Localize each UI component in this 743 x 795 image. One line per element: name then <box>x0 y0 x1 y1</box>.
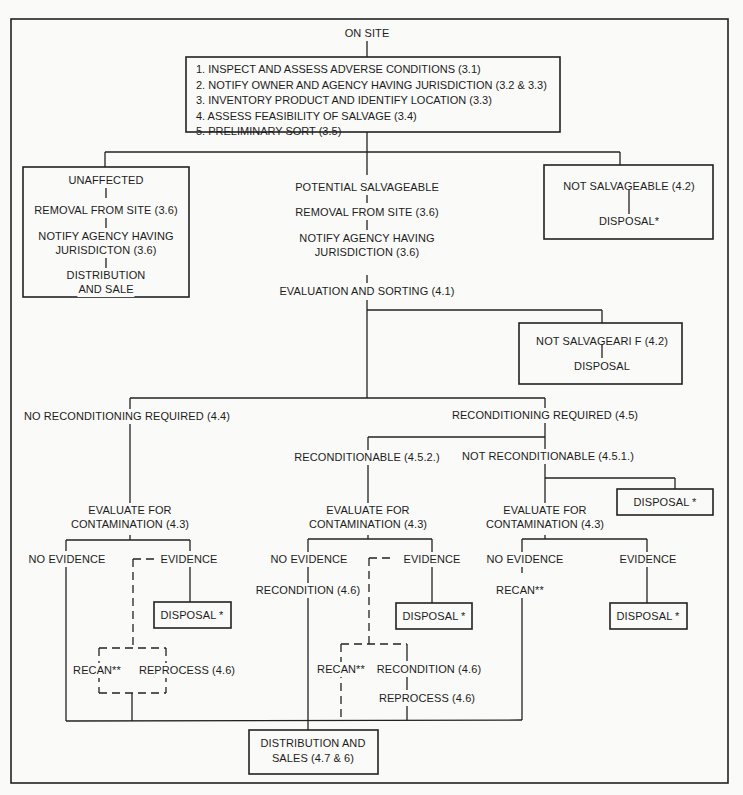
step-5: 5. PRELIMINARY SORT (3.5) <box>196 124 547 140</box>
recondable-no-evidence: NO EVIDENCE <box>270 552 349 567</box>
evaluation-sorting: EVALUATION AND SORTING (4.1) <box>278 284 455 299</box>
step-3: 3. INVENTORY PRODUCT AND IDENTIFY LOCATI… <box>196 93 547 109</box>
no-recond-reprocess: REPROCESS (4.6) <box>138 663 236 678</box>
step-1: 1. INSPECT AND ASSESS ADVERSE CONDITIONS… <box>196 62 547 78</box>
not-recond-evaluate-2: CONTAMINATION (4.3) <box>485 517 605 532</box>
unaffected-distribution-2: AND SALE <box>77 282 134 297</box>
potential-removal: REMOVAL FROM SITE (3.6) <box>294 205 439 220</box>
no-recond-no-evidence: NO EVIDENCE <box>28 552 107 567</box>
step-2: 2. NOTIFY OWNER AND AGENCY HAVING JURISD… <box>196 78 547 94</box>
unaffected-label: UNAFFECTED <box>68 173 145 188</box>
potential-salvageable-label: POTENTIAL SALVAGEABLE <box>294 180 440 195</box>
unaffected-notify-2: JURISDICTON (3.6) <box>54 243 157 258</box>
no-recond-evidence: EVIDENCE <box>159 552 218 567</box>
recondable-recan: RECAN** <box>316 662 366 677</box>
not-recond-disposal-side: DISPOSAL * <box>633 495 698 510</box>
unaffected-distribution-1: DISTRIBUTION <box>66 268 147 283</box>
not-recond-disposal: DISPOSAL * <box>616 609 681 624</box>
potential-notify-1: NOTIFY AGENCY HAVING <box>298 231 435 246</box>
distribution-sales-line-1: DISTRIBUTION AND <box>260 736 367 751</box>
recondable-recondition: RECONDITION (4.6) <box>255 583 361 598</box>
unaffected-removal: REMOVAL FROM SITE (3.6) <box>33 203 178 218</box>
on-site-label: ON SITE <box>344 26 391 41</box>
not-salvageable-top-disposal: DISPOSAL* <box>598 214 660 229</box>
recondable-evaluate-2: CONTAMINATION (4.3) <box>308 517 428 532</box>
no-recond-evaluate-2: CONTAMINATION (4.3) <box>70 517 190 532</box>
recondable-evaluate-1: EVALUATE FOR <box>325 503 410 518</box>
not-salvageable-mid-label: NOT SALVAGEARI F (4.2) <box>535 334 669 349</box>
not-recond-no-evidence: NO EVIDENCE <box>486 552 565 567</box>
not-recond-recan: RECAN** <box>495 583 545 598</box>
not-salvageable-top-label: NOT SALVAGEABLE (4.2) <box>562 179 696 194</box>
distribution-sales-line-2: SALES (4.7 & 6) <box>271 751 355 766</box>
recondable-disposal: DISPOSAL * <box>402 609 467 624</box>
not-recond-evaluate-1: EVALUATE FOR <box>502 503 587 518</box>
not-salvageable-mid-disposal: DISPOSAL <box>573 359 631 374</box>
not-recond-evidence: EVIDENCE <box>618 552 677 567</box>
reconditioning-required-label: RECONDITIONING REQUIRED (4.5) <box>451 408 639 423</box>
no-recond-disposal: DISPOSAL * <box>160 608 225 623</box>
not-reconditionable-label: NOT RECONDITIONABLE (4.5.1.) <box>461 449 635 464</box>
reconditionable-label: RECONDITIONABLE (4.5.2.) <box>293 450 440 465</box>
recondable-reprocess: REPROCESS (4.6) <box>378 691 476 706</box>
unaffected-notify-1: NOTIFY AGENCY HAVING <box>37 229 174 244</box>
recondable-evidence: EVIDENCE <box>402 552 461 567</box>
main-steps-list: 1. INSPECT AND ASSESS ADVERSE CONDITIONS… <box>196 62 547 140</box>
not-salvageable-box-mid <box>519 323 682 384</box>
step-4: 4. ASSESS FEASIBILITY OF SALVAGE (3.4) <box>196 109 547 125</box>
no-recond-recan: RECAN** <box>72 663 122 678</box>
no-reconditioning-label: NO RECONDITIONING REQUIRED (4.4) <box>23 409 231 424</box>
no-recond-evaluate-1: EVALUATE FOR <box>87 503 172 518</box>
potential-notify-2: JURISDICTION (3.6) <box>314 245 420 260</box>
recondable-recondition-2: RECONDITION (4.6) <box>376 662 482 677</box>
